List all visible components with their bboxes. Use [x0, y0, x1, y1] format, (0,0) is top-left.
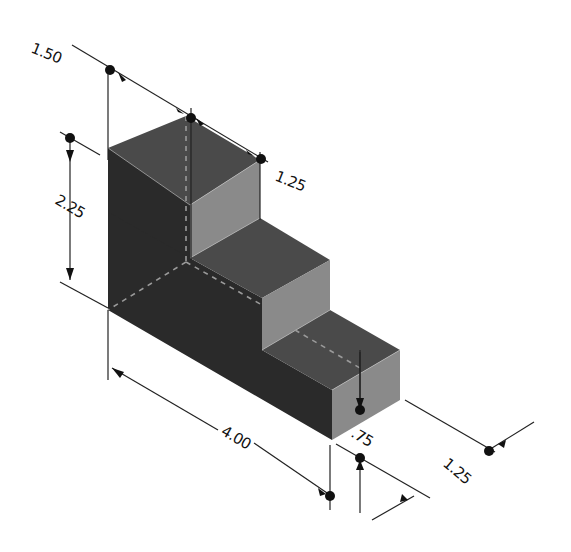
- dim-label-1-50: 1.50: [29, 39, 65, 67]
- dim-label-1-25-top: 1.25: [273, 167, 309, 195]
- dim-label-1-25-right: 1.25: [439, 454, 475, 488]
- isometric-drawing: 1.50 1.25 2.25 4.00 .75 1.25: [0, 0, 571, 552]
- dim-label-4-00: 4.00: [218, 422, 254, 453]
